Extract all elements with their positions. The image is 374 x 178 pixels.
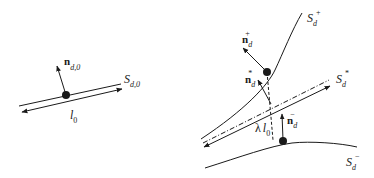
upper-surface-label: Sd+ [307,8,321,28]
left-panel: nd,0 Sd,0 l0 [19,55,140,125]
right-panel: Sd+ nd+ nd* Sd* nd− λl0 Sd− [201,8,360,172]
length-label: l0 [70,108,77,125]
lower-normal-arrow [282,114,283,140]
lambda-length-label: λl0 [255,121,270,138]
diagram-canvas: nd,0 Sd,0 l0 Sd+ nd+ nd* Sd* [0,0,374,178]
segment-label: Sd,0 [124,72,140,89]
upper-normal-label: nd+ [242,29,253,49]
point-marker [62,91,70,99]
mid-segment-label: Sd* [336,69,349,89]
mid-normal-label: nd* [245,69,256,89]
lower-surface-curve [205,142,357,168]
upper-point-marker [263,68,271,76]
normal-arrow [57,66,66,95]
lower-normal-label: nd− [287,110,298,130]
lower-surface-label: Sd− [346,152,360,172]
lower-point-marker [279,137,287,145]
upper-normal-arrow [243,48,267,72]
normal-label: nd,0 [64,55,80,72]
